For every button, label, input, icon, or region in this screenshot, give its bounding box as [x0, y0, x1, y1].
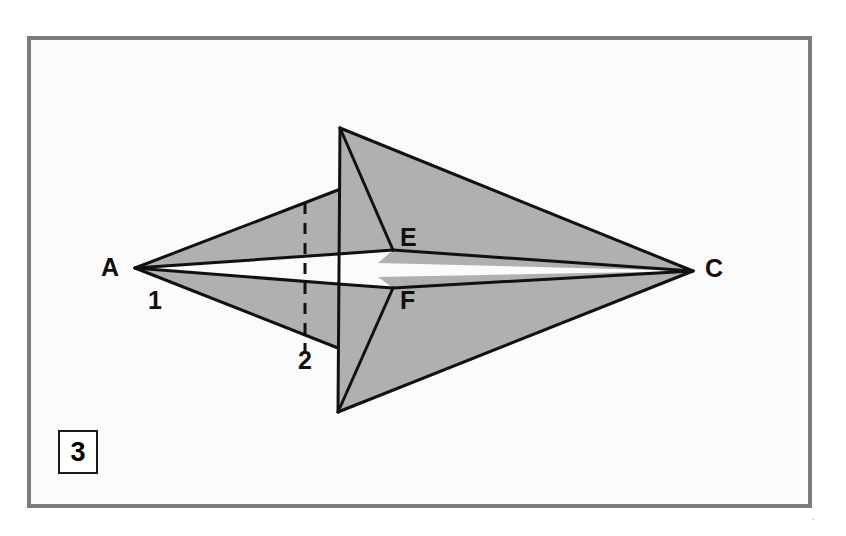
- diagram-page: A C E F 1 2 3: [0, 0, 846, 536]
- fold-label-1: 1: [148, 288, 162, 313]
- step-number-badge: 3: [58, 430, 98, 474]
- fold-label-2: 2: [298, 348, 312, 373]
- shaded-regions: [135, 128, 693, 412]
- vertex-label-f: F: [400, 288, 415, 313]
- vertex-label-e: E: [400, 225, 417, 250]
- page-speck: [812, 518, 814, 520]
- vertex-label-c: C: [705, 256, 723, 281]
- vertex-label-a: A: [101, 255, 119, 280]
- edge-top-vertical-crease: [338, 128, 340, 412]
